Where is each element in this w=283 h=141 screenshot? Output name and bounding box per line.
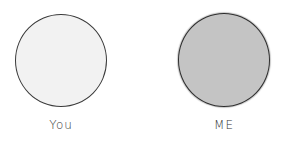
label-me: ME [194,118,254,132]
circle-me [178,13,270,107]
label-you: You [31,118,91,132]
circle-you [15,14,107,107]
